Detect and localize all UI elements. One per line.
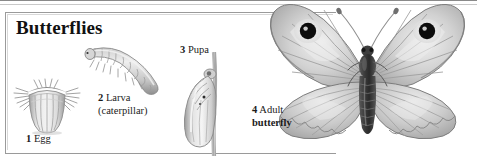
stage-number-egg: 1 (26, 133, 31, 144)
chrysalis-illustration (170, 52, 238, 156)
butterfly-life-cycle-figure: Butterflies (0, 0, 477, 159)
stage-name-larva: Larva (106, 92, 130, 103)
stage-secondary-adult: butterfly (252, 117, 292, 130)
stage-number-larva: 2 (98, 92, 103, 103)
stage-number-adult: 4 (252, 104, 257, 115)
adult-butterfly-illustration (258, 0, 477, 159)
stage-label-adult: 4 Adult butterfly (252, 104, 292, 129)
butterfly-egg-illustration (8, 78, 86, 136)
figure-title: Butterflies (16, 17, 103, 39)
stage-secondary-larva: (caterpillar) (98, 105, 148, 118)
stage-number-pupa: 3 (180, 44, 185, 55)
stage-label-egg: 1 Egg (26, 133, 51, 146)
stage-label-larva: 2 Larva (caterpillar) (98, 92, 148, 117)
stage-name-egg: Egg (34, 133, 51, 144)
stage-name-pupa: Pupa (188, 44, 209, 55)
stage-name-adult: Adult (259, 104, 283, 115)
caterpillar-illustration (76, 38, 168, 96)
stage-label-pupa: 3 Pupa (180, 44, 209, 57)
